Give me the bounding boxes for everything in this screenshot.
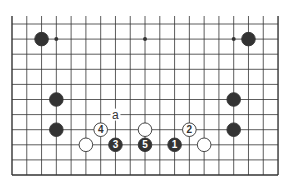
white-stone-2: 2 — [183, 123, 197, 137]
black-stone-5: 5 — [138, 138, 152, 152]
black-stone-1: 1 — [168, 138, 182, 152]
black-stone — [50, 93, 64, 107]
go-board: 42351 a — [0, 0, 289, 189]
black-stone — [227, 93, 241, 107]
star-point-icon — [54, 37, 58, 41]
move-number: 2 — [187, 124, 193, 135]
move-number: 5 — [142, 139, 148, 150]
black-stone-3: 3 — [109, 138, 123, 152]
black-stone — [227, 123, 241, 137]
black-stone — [50, 123, 64, 137]
black-stone — [242, 32, 256, 46]
move-number: 1 — [172, 139, 178, 150]
move-number: 4 — [98, 124, 104, 135]
white-stone — [197, 138, 211, 152]
white-stone-4: 4 — [94, 123, 108, 137]
star-point-icon — [232, 37, 236, 41]
white-stone — [79, 138, 93, 152]
move-number: 3 — [113, 139, 119, 150]
star-point-icon — [143, 37, 147, 41]
white-stone — [138, 123, 152, 137]
markers-layer: a — [110, 108, 120, 122]
point-marker-label: a — [112, 108, 119, 122]
black-stone — [35, 32, 49, 46]
